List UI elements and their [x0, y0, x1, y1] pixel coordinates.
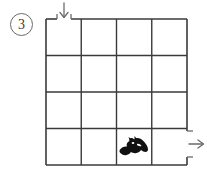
- problem-number-badge: 3: [10, 13, 33, 36]
- puzzle-figure: 3: [0, 0, 207, 175]
- puzzle-type-label: grid-maze-path-puzzle: [0, 0, 1, 1]
- exit-arrow-right-icon: [189, 140, 204, 148]
- grid-container: [46, 19, 187, 165]
- bat-icon: [119, 136, 149, 157]
- entrance-arrow-down-icon: [60, 3, 68, 18]
- creature-cell: [117, 129, 152, 166]
- problem-number-label: 3: [18, 18, 25, 32]
